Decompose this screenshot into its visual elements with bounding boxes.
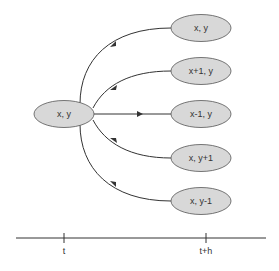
timeline xyxy=(16,233,266,243)
target-node-label: x-1, y xyxy=(190,109,213,119)
edge-to-x-y-minus-1 xyxy=(80,124,171,201)
target-node-label: x, y xyxy=(194,23,209,33)
target-node-label: x, y+1 xyxy=(189,153,213,163)
target-node: x+1, y xyxy=(171,58,231,85)
target-node: x, y xyxy=(171,15,231,42)
edge-to-x-y xyxy=(80,28,171,104)
target-node: x-1, y xyxy=(171,101,231,128)
target-node-label: x, y-1 xyxy=(190,196,212,206)
tick-label-t-plus-h: t+h xyxy=(200,246,213,256)
target-node-label: x+1, y xyxy=(189,66,214,76)
source-node-label: x, y xyxy=(57,109,72,119)
edge-to-x-plus-1-y xyxy=(93,71,171,108)
arrow-icon xyxy=(137,111,143,117)
target-node: x, y+1 xyxy=(171,145,231,172)
arrow-icon xyxy=(110,181,116,187)
arrow-icon xyxy=(110,138,117,143)
edge-to-x-y-plus-1 xyxy=(93,120,171,158)
arrow-icon xyxy=(110,85,117,90)
state-transition-diagram: x, y x, y x+1, y x-1, y x, y+1 x, y-1 t … xyxy=(0,0,279,271)
source-node: x, y xyxy=(34,101,94,128)
target-node: x, y-1 xyxy=(171,188,231,215)
tick-label-t: t xyxy=(63,246,66,256)
